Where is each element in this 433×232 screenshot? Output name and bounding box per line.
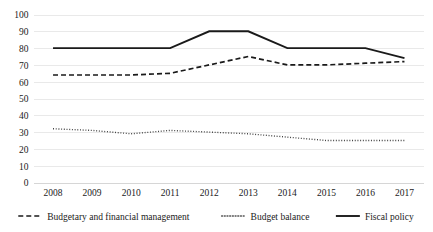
y-axis-tick-label: 40 <box>19 111 29 121</box>
y-axis-tick-label: 20 <box>19 145 29 155</box>
y-axis-tick-label: 70 <box>19 61 29 71</box>
y-axis-tick-label: 80 <box>19 44 29 54</box>
legend-item-label: Fiscal policy <box>365 212 414 222</box>
y-axis-tick-label: 60 <box>19 78 29 88</box>
x-axis-tick-label: 2016 <box>356 188 375 198</box>
y-axis-tick-label: 30 <box>19 128 29 138</box>
x-axis-tick-label: 2011 <box>161 188 180 198</box>
line-chart: 0102030405060708090100 20082009201020112… <box>0 0 433 232</box>
chart-legend: Budgetary and financial managementBudget… <box>18 212 414 222</box>
y-axis-tick-label: 100 <box>14 10 29 20</box>
legend-item-label: Budget balance <box>251 212 310 222</box>
data-series <box>53 31 404 140</box>
y-axis-tick-label: 90 <box>19 27 29 37</box>
y-axis-tick-label: 0 <box>24 178 29 188</box>
series-line <box>53 129 404 141</box>
y-axis-tick-labels: 0102030405060708090100 <box>14 10 29 188</box>
y-axis-tick-label: 10 <box>19 162 29 172</box>
series-line <box>53 31 404 58</box>
x-axis-tick-label: 2012 <box>200 188 219 198</box>
x-axis-tick-label: 2014 <box>278 188 297 198</box>
legend-item-label: Budgetary and financial management <box>47 212 190 222</box>
x-axis-tick-label: 2009 <box>83 188 102 198</box>
x-axis-tick-label: 2010 <box>122 188 141 198</box>
x-axis-tick-label: 2013 <box>239 188 258 198</box>
x-axis-tick-label: 2017 <box>395 188 414 198</box>
x-axis-tick-label: 2015 <box>317 188 336 198</box>
y-axis-tick-label: 50 <box>19 94 29 104</box>
x-axis-tick-labels: 2008200920102011201220132014201520162017 <box>44 188 415 198</box>
x-axis-tick-label: 2008 <box>44 188 63 198</box>
gridlines <box>34 15 425 183</box>
chart-canvas: 0102030405060708090100 20082009201020112… <box>0 0 433 232</box>
